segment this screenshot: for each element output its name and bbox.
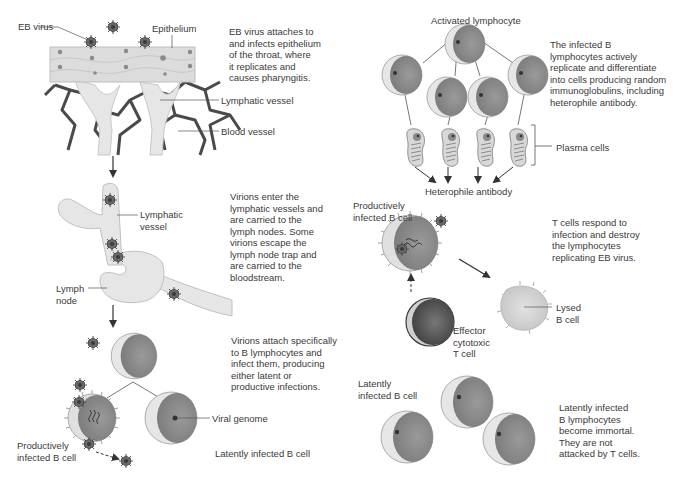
antibody-arrows xyxy=(415,167,513,182)
blood-vessel-network xyxy=(45,82,240,155)
arrow-to-lysed xyxy=(459,259,489,277)
label-activated-lymphocyte: Activated lymphocyte xyxy=(431,15,521,27)
label-lymph-node: Lymph node xyxy=(56,283,84,306)
plasma-cells xyxy=(407,129,528,166)
label-effector-t-cell: Effector cytotoxic T cell xyxy=(453,325,490,360)
step3-description: Virions attach specifically to B lymphoc… xyxy=(231,335,337,393)
label-viral-genome: Viral genome xyxy=(212,413,268,425)
virion-on-cell-b xyxy=(395,242,409,256)
label-latently-infected-left: Latently infected B cell xyxy=(215,448,310,460)
label-lymphatic-vessel: Lymphatic vessel xyxy=(221,95,294,107)
virion-on-cell-a xyxy=(434,214,448,228)
step5-description: T cells respond to infection and destroy… xyxy=(552,217,640,263)
plasma-bracket xyxy=(531,125,552,165)
eb-virus-particles-step1 xyxy=(84,20,152,49)
label-epithelium: Epithelium xyxy=(152,23,196,35)
effector-cytotoxic-t-cell xyxy=(406,298,454,346)
label-blood-vessel: Blood vessel xyxy=(221,126,275,138)
label-plasma-cells: Plasma cells xyxy=(556,142,609,154)
label-eb-virus: EB virus xyxy=(18,21,53,33)
label-lysed-b-cell: Lysed B cell xyxy=(556,302,581,325)
label-latently-infected-right: Latently infected B cell xyxy=(358,378,417,401)
step2-description: Virions enter the lymphatic vessels and … xyxy=(230,191,323,283)
productively-infected-b-cell xyxy=(64,390,120,444)
label-lymphatic-vessel-2: Lymphatic vessel xyxy=(140,209,183,232)
lymph-vessel-and-node xyxy=(58,183,232,316)
dashed-arrow-release xyxy=(96,452,118,459)
b-lymphocyte-uninfected xyxy=(111,333,157,379)
lysed-b-cell xyxy=(497,281,552,334)
virion-free xyxy=(86,336,100,350)
viral-genome-dot xyxy=(173,416,178,421)
step6-description: Latently infected B lymphocytes become i… xyxy=(559,402,640,460)
label-heterophile-antibody: Heterophile antibody xyxy=(425,186,512,198)
step4-description: The infected B lymphocytes actively repl… xyxy=(550,39,666,108)
epithelium-layer xyxy=(50,47,195,82)
step1-description: EB virus attaches to and infects epithel… xyxy=(229,26,321,84)
branch-lines xyxy=(107,382,160,398)
label-productively-infected-left: Productively infected B cell xyxy=(17,440,76,463)
label-productively-infected-right: Productively infected B cell xyxy=(353,200,412,223)
